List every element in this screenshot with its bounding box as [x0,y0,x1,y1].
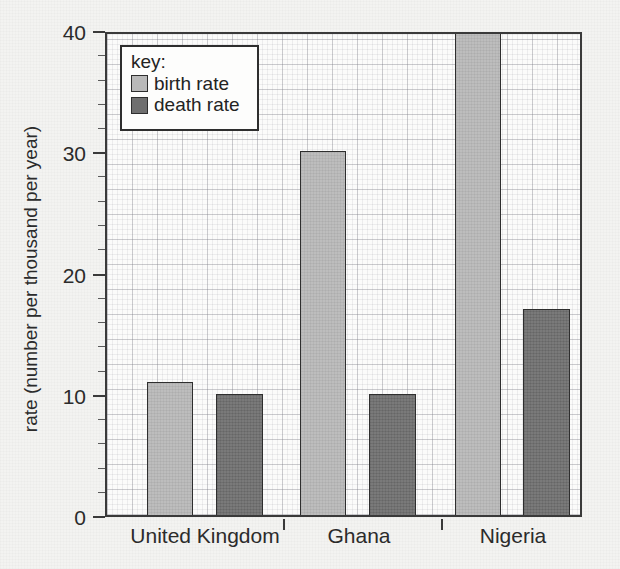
legend-swatch-icon-death-rate [131,97,148,114]
x-axis-label-nigeria: Nigeria [480,524,547,548]
legend-title: key: [131,52,257,73]
bar-chart: rate (number per thousand per year) 40 3… [0,0,620,569]
legend-label: death rate [154,95,240,116]
y-axis-minor-tick [98,298,105,299]
y-axis-tick-10 [93,395,105,397]
y-axis-minor-tick [98,80,105,81]
y-axis-minor-tick [98,201,105,202]
y-axis-tick-30 [93,152,105,154]
bar-ghana-death-rate [369,394,416,517]
y-tick-label: 20 [63,265,86,286]
y-axis-minor-tick [98,346,105,347]
x-axis-group-separator-tick [441,519,443,530]
y-axis-minor-tick [98,176,105,177]
y-axis-minor-tick [98,443,105,444]
y-axis-minor-tick [98,419,105,420]
bar-united-kingdom-birth-rate [147,382,193,517]
legend: key: birth rate death rate [120,45,259,131]
bar-united-kingdom-death-rate [216,394,263,517]
y-axis-minor-tick [98,492,105,493]
y-axis-tick-labels: 40 30 20 10 0 [28,0,86,569]
y-tick-label: 10 [63,386,86,407]
legend-entry-birth-rate: birth rate [131,74,257,95]
bar-nigeria-death-rate [523,309,570,517]
y-axis-minor-tick [98,322,105,323]
legend-entry-death-rate: death rate [131,95,257,116]
y-axis-minor-tick [98,249,105,250]
y-axis-minor-tick [98,225,105,226]
y-axis-tick-0 [93,516,105,518]
y-axis-minor-tick [98,468,105,469]
x-axis-label-ghana: Ghana [327,524,390,548]
y-axis-tick-40 [93,31,105,33]
x-axis-group-separator-tick [283,519,285,530]
y-tick-label: 30 [63,143,86,164]
y-axis-minor-tick [98,128,105,129]
y-tick-label: 40 [63,22,86,43]
bar-ghana-birth-rate [300,151,346,517]
y-axis-minor-tick [98,371,105,372]
y-axis-minor-tick [98,104,105,105]
legend-swatch-icon-birth-rate [131,75,148,92]
x-axis-label-united-kingdom: United Kingdom [130,524,279,548]
y-axis-tick-20 [93,274,105,276]
y-axis-minor-tick [98,55,105,56]
y-tick-label: 0 [74,507,86,528]
legend-label: birth rate [154,74,229,95]
bar-nigeria-birth-rate [455,32,501,517]
